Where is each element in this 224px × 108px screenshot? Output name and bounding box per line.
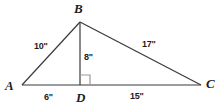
measure-label-bc: 17" <box>142 40 156 49</box>
vertex-label-d: D <box>76 91 85 104</box>
vertex-label-a: A <box>5 79 14 92</box>
measure-label-bd: 8" <box>84 53 93 62</box>
segment-bc <box>80 22 201 85</box>
vertex-label-b: B <box>74 2 83 15</box>
segment-ab <box>22 22 80 85</box>
measure-label-ab: 10" <box>34 42 48 51</box>
triangle-svg <box>0 0 224 108</box>
geometry-figure: B A C D 10" 17" 8" 6" 15" <box>0 0 224 108</box>
vertex-label-c: C <box>206 77 215 90</box>
measure-label-dc: 15" <box>130 92 144 101</box>
right-angle-marker-icon <box>80 75 90 85</box>
measure-label-ad: 6" <box>44 93 53 102</box>
